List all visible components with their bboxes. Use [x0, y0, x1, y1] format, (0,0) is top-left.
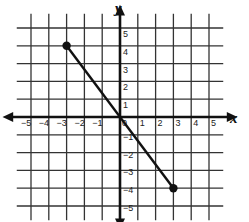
x-axis-label: x	[229, 110, 238, 126]
x-axis-left-arrow-icon	[3, 112, 14, 122]
y-tick-label: −2	[123, 150, 133, 160]
x-tick-label: −2	[74, 118, 84, 128]
y-tick-label: 1	[123, 100, 128, 110]
x-tick-label: 2	[158, 118, 163, 128]
y-tick-label: 2	[123, 82, 128, 92]
axes	[3, 5, 238, 222]
y-tick-label: −5	[123, 203, 133, 213]
endpoint-dot	[169, 184, 177, 192]
tick-labels: −5−4−3−2−101234554321−1−2−3−4−5	[21, 29, 216, 213]
x-tick-label: −4	[39, 118, 49, 128]
x-tick-label: 5	[211, 118, 216, 128]
x-tick-label: 1	[140, 118, 145, 128]
x-tick-label: 3	[175, 118, 180, 128]
y-axis-down-arrow-icon	[115, 218, 125, 222]
x-tick-label: −3	[57, 118, 67, 128]
y-tick-label: 3	[123, 65, 128, 75]
y-tick-label: −4	[123, 185, 133, 195]
y-tick-label: 4	[123, 47, 128, 57]
x-tick-label: −1	[92, 118, 102, 128]
coordinate-plane: −5−4−3−2−101234554321−1−2−3−4−5 x y	[0, 0, 249, 222]
y-tick-label: −3	[123, 167, 133, 177]
y-axis-label: y	[113, 0, 122, 16]
y-tick-label: 5	[123, 29, 128, 39]
endpoint-dot	[62, 42, 70, 50]
x-tick-label: 4	[193, 118, 198, 128]
x-tick-label: −5	[21, 118, 31, 128]
